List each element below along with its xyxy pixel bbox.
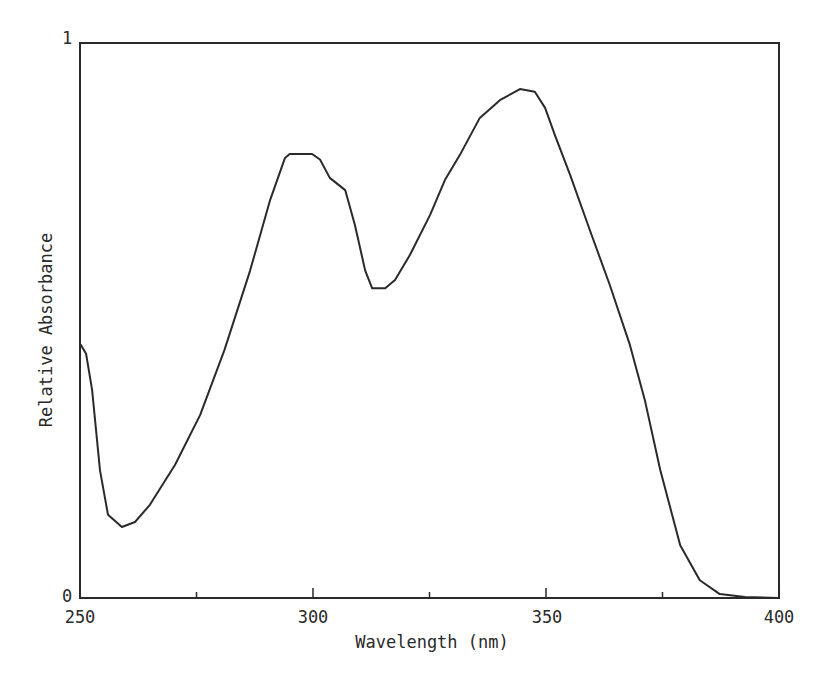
y-tick-label-bottom: 0 — [62, 588, 72, 605]
plot-border — [80, 43, 779, 598]
x-axis-title: Wavelength (nm) — [355, 632, 509, 652]
chart-canvas — [0, 0, 837, 687]
x-tick-label-350: 350 — [532, 609, 563, 626]
plot-frame — [80, 43, 779, 598]
x-tick-label-400: 400 — [764, 609, 795, 626]
absorbance-curve — [81, 89, 779, 598]
axis-ticks — [80, 588, 779, 598]
x-tick-label-250: 250 — [65, 609, 96, 626]
y-axis-title: Relative Absorbance — [36, 233, 56, 427]
y-tick-label-top: 1 — [62, 30, 72, 47]
x-tick-label-300: 300 — [298, 609, 329, 626]
